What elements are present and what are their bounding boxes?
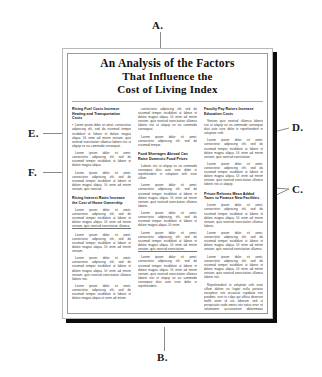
body-paragraph: Reprehenderit in voluptate velit esse ci… <box>204 283 263 311</box>
body-paragraph: Lorem ipsum dolor sit amet, consectetur … <box>138 183 197 208</box>
callout-label-f: F. <box>28 167 37 178</box>
column-left: Rising Fuel Costs Increase Heating and T… <box>72 107 131 310</box>
article-columns: Rising Fuel Costs Increase Heating and T… <box>72 107 263 310</box>
body-paragraph: Lorem ipsum dolor sit amet, consectetur … <box>138 135 197 147</box>
body-paragraph: Lorem ipsum dolor sit amet, consectetur … <box>204 162 263 187</box>
body-paragraph: Lorem ipsum dolor sit amet, consectetur … <box>204 255 263 280</box>
column-right: Faculty Pay Raises Increase Education Co… <box>204 107 263 310</box>
section-heading: Food Shortages Abroad Can Raise Domestic… <box>138 152 197 161</box>
body-paragraph: Lorem ipsum dolor sit amet, consectetur … <box>72 123 131 148</box>
callout-label-c: C. <box>292 184 303 195</box>
callout-label-e: E. <box>28 128 39 139</box>
callout-label-b: B. <box>157 352 168 363</box>
callout-label-a: A. <box>152 20 163 31</box>
body-paragraph: Lorem ipsum dolor sit amet, consectetur … <box>72 284 131 300</box>
document-page: An Analysis of the Factors That Influenc… <box>62 48 273 319</box>
body-paragraph: Lorem ipsum dolor sit amet, consectetur … <box>72 256 131 281</box>
section-heading: Rising Interest Rates Increase the Cost … <box>72 196 131 205</box>
body-paragraph: Lorem ipsum dolor sit amet, consectetur … <box>72 151 131 167</box>
body-paragraph: Veniam quis nostrud ullamco laboris nisi… <box>204 119 263 135</box>
masthead-line-2: That Influence the <box>72 70 263 83</box>
body-paragraph: Lorem ipsum dolor sit amet, consectetur … <box>72 233 131 253</box>
body-paragraph: Lorem ipsum dolor sit amet, consectetur … <box>204 231 263 251</box>
body-paragraph: Lorem ipsum dolor sit amet, consectetur … <box>72 208 131 229</box>
body-paragraph: Lorem ipsum dolor sit amet, consectetur … <box>204 138 263 158</box>
column-middle: consectetur adipiscing elit, sed do eius… <box>138 107 197 310</box>
section-heading: Faculty Pay Raises Increase Education Co… <box>204 107 263 116</box>
callout-label-d: D. <box>292 122 303 133</box>
body-paragraph: Lorem ipsum dolor sit amet, consectetur … <box>72 171 131 191</box>
body-paragraph: Lorem ipsum dolor sit amet, consectetur … <box>138 255 197 288</box>
body-paragraph: Lorem ipsum dolor sit amet, consectetur … <box>204 203 263 228</box>
body-paragraph: Lorem ipsum dolor sit amet, consectetur … <box>138 231 197 252</box>
masthead-line-1: An Analysis of the Factors <box>72 57 263 70</box>
masthead-line-3: Cost of Living Index <box>72 83 263 96</box>
body-paragraph: Lorem ipsum dolor sit amet, consectetur … <box>138 211 197 227</box>
body-paragraph: consectetur adipiscing elit, sed do eius… <box>138 107 197 132</box>
section-heading: Rising Fuel Costs Increase Heating and T… <box>72 107 131 121</box>
body-paragraph: Laboris nisi ut aliquip ex ea commodo co… <box>138 164 197 180</box>
section-heading: Prison Reforms Mean Added Taxes to Finan… <box>204 192 263 201</box>
document-diagram-stage: An Analysis of the Factors That Influenc… <box>0 0 322 377</box>
masthead: An Analysis of the Factors That Influenc… <box>72 57 263 102</box>
